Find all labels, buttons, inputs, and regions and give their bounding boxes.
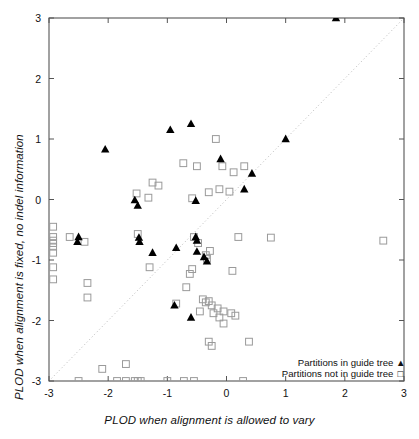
open-square-icon: □	[396, 368, 405, 379]
data-point-open-square	[50, 223, 57, 230]
y-tick-label: -1	[32, 254, 41, 266]
data-point-open-square	[186, 271, 193, 278]
data-point-open-square	[205, 189, 212, 196]
data-point-filled-triangle	[101, 145, 109, 153]
x-tick-label: 3	[401, 387, 407, 399]
data-point-open-square	[99, 366, 106, 373]
x-tick-label: -2	[103, 387, 112, 399]
data-point-open-square	[226, 188, 233, 195]
filled-triangle-icon: ▲	[396, 357, 405, 368]
data-point-filled-triangle	[166, 126, 174, 134]
legend-label-not-in-guide-tree: Partitions not in guide tree	[282, 368, 393, 379]
data-point-open-square	[246, 338, 253, 345]
data-point-open-square	[267, 234, 274, 241]
data-point-open-square	[194, 163, 201, 170]
data-point-open-square	[84, 280, 91, 287]
scatter-plot-figure: -3-2-10123-3-2-10123 PLOD when alignment…	[0, 0, 419, 439]
data-point-open-square	[235, 234, 242, 241]
data-point-open-square	[145, 194, 152, 201]
data-point-open-square	[228, 310, 235, 317]
data-point-filled-triangle	[248, 169, 256, 177]
data-point-filled-triangle	[148, 248, 156, 256]
data-point-open-square	[189, 266, 196, 273]
legend-entry-in-guide-tree: Partitions in guide tree ▲	[282, 357, 405, 368]
data-point-open-square	[219, 163, 226, 170]
data-point-open-square	[123, 361, 130, 368]
y-tick-label: 2	[35, 73, 41, 85]
x-tick-label: -1	[163, 387, 172, 399]
data-point-open-square	[133, 190, 140, 197]
y-tick-label: -3	[32, 375, 41, 387]
data-point-filled-triangle	[216, 155, 224, 163]
data-point-filled-triangle	[240, 185, 248, 193]
legend-label-in-guide-tree: Partitions in guide tree	[298, 357, 393, 368]
y-axis-label: PLOD when alignment is fixed, no indel i…	[13, 134, 25, 400]
y-tick-label: 0	[35, 194, 41, 206]
data-point-open-square	[216, 186, 223, 193]
data-point-open-square	[230, 169, 237, 176]
data-point-open-square	[380, 237, 387, 244]
x-tick-label: -3	[44, 387, 53, 399]
data-point-open-square	[66, 234, 73, 241]
data-point-open-square	[50, 276, 57, 283]
data-point-filled-triangle	[192, 196, 200, 204]
data-point-filled-triangle	[193, 247, 201, 255]
data-point-open-square	[232, 312, 239, 319]
data-point-filled-triangle	[187, 119, 195, 127]
data-point-filled-triangle	[172, 244, 180, 252]
data-point-open-square	[241, 163, 248, 170]
x-tick-label: 2	[342, 387, 348, 399]
data-point-open-square	[146, 264, 153, 271]
data-point-open-square	[229, 267, 236, 274]
data-point-open-square	[207, 248, 214, 255]
data-point-open-square	[180, 160, 187, 167]
data-point-filled-triangle	[332, 14, 340, 22]
x-axis-label: PLOD when alignment is allowed to vary	[0, 414, 419, 426]
data-point-open-square	[183, 284, 190, 291]
y-tick-label: -2	[32, 315, 41, 327]
data-point-open-square	[84, 294, 91, 301]
data-point-open-square	[212, 136, 219, 143]
x-tick-label: 1	[283, 387, 289, 399]
data-point-filled-triangle	[187, 313, 195, 321]
data-points-group	[50, 14, 387, 385]
legend-entry-not-in-guide-tree: Partitions not in guide tree □	[282, 368, 405, 379]
data-point-filled-triangle	[170, 301, 178, 309]
data-point-filled-triangle	[74, 233, 82, 241]
data-point-open-square	[50, 264, 57, 271]
y-tick-label: 1	[35, 133, 41, 145]
legend: Partitions in guide tree ▲ Partitions no…	[282, 357, 405, 380]
x-tick-label: 0	[224, 387, 230, 399]
y-tick-label: 3	[35, 12, 41, 24]
data-point-open-square	[196, 308, 203, 315]
